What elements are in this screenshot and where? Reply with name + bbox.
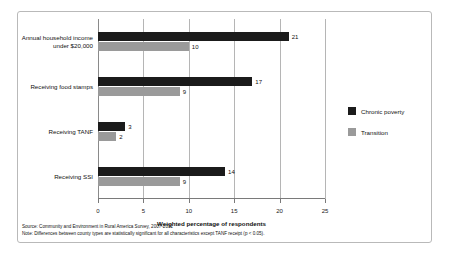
tick-label-15: 15 xyxy=(231,208,238,214)
bar-group: Receiving TANF32 xyxy=(98,109,325,154)
bar-transition: 9 xyxy=(98,177,180,186)
bar-chronic-poverty: 21 xyxy=(98,32,289,41)
bar-chronic-poverty: 14 xyxy=(98,167,225,176)
footnote-note: Note: Differences between county types a… xyxy=(22,230,264,237)
bar-transition: 9 xyxy=(98,87,180,96)
legend-label: Chronic poverty xyxy=(361,108,404,115)
bar-value-label: 9 xyxy=(183,89,186,95)
bar-value-label: 14 xyxy=(228,169,235,175)
chart-footnotes: Source: Community and Environment in Rur… xyxy=(22,223,264,237)
bar-chronic-poverty: 17 xyxy=(98,77,252,86)
tick-mark-15 xyxy=(234,199,235,203)
legend-item[interactable]: Chronic poverty xyxy=(348,107,428,115)
x-axis-line xyxy=(98,198,325,199)
tick-label-20: 20 xyxy=(276,208,283,214)
tick-label-25: 25 xyxy=(322,208,329,214)
chart-figure: Annual household incomeunder $20,0002110… xyxy=(17,11,432,243)
bar-value-label: 3 xyxy=(128,124,131,130)
bar-transition: 2 xyxy=(98,132,116,141)
tick-label-5: 5 xyxy=(142,208,145,214)
tick-label-10: 10 xyxy=(185,208,192,214)
tick-mark-25 xyxy=(325,199,326,203)
tick-mark-10 xyxy=(189,199,190,203)
bar-chronic-poverty: 3 xyxy=(98,122,125,131)
category-label: Receiving SSI xyxy=(0,173,93,181)
category-label: Annual household incomeunder $20,000 xyxy=(0,34,93,50)
footnote-source: Source: Community and Environment in Rur… xyxy=(22,223,264,230)
legend-item[interactable]: Transition xyxy=(348,128,428,136)
tick-mark-0 xyxy=(98,199,99,203)
bar-group: Receiving food stamps179 xyxy=(98,64,325,109)
tick-mark-20 xyxy=(280,199,281,203)
bar-value-label: 9 xyxy=(183,179,186,185)
category-label: Receiving TANF xyxy=(0,128,93,136)
tick-label-0: 0 xyxy=(96,208,99,214)
legend-swatch-icon xyxy=(348,128,356,136)
legend-swatch-icon xyxy=(348,107,356,115)
bar-value-label: 10 xyxy=(192,44,199,50)
category-label: Receiving food stamps xyxy=(0,83,93,91)
gridline-25 xyxy=(325,19,326,199)
bar-transition: 10 xyxy=(98,42,189,51)
legend-label: Transition xyxy=(361,129,388,136)
chart-legend: Chronic povertyTransition xyxy=(348,107,428,149)
bar-value-label: 21 xyxy=(292,34,299,40)
bar-group: Receiving SSI149 xyxy=(98,154,325,199)
bar-group: Annual household incomeunder $20,0002110 xyxy=(98,19,325,64)
tick-mark-5 xyxy=(143,199,144,203)
bar-value-label: 2 xyxy=(119,134,122,140)
bar-value-label: 17 xyxy=(255,79,262,85)
plot-area: Annual household incomeunder $20,0002110… xyxy=(98,19,325,199)
